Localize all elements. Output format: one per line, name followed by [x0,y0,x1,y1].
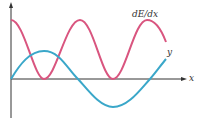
label-dE-dx: dE/dx [132,10,158,19]
x-axis-arrow-icon [181,77,187,81]
label-x: x [189,74,194,83]
diagram: dE/dx y x [0,0,202,121]
label-y: y [167,48,172,57]
curve-dE-dx [11,20,166,79]
y-axis-arrow-icon [9,2,13,8]
plot-canvas [0,0,202,121]
